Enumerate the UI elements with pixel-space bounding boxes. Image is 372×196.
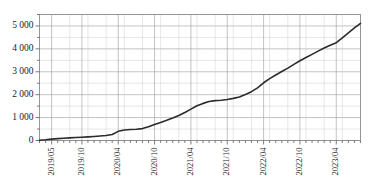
- data-line-cumulative-total: [40, 23, 361, 140]
- figure-caption: [0, 189, 372, 196]
- x-tick-label: 2021/04: [185, 147, 195, 176]
- y-tick-label: 1 000: [12, 112, 34, 122]
- y-tick-label: 3 000: [12, 66, 34, 76]
- line-chart: 5 0004 0003 0002 0001 0000 2019/052019/1…: [0, 0, 372, 196]
- x-axis-tick-labels: 2019/052019/102020/042020/102021/042021/…: [46, 147, 341, 176]
- x-tick-label: 2023/04: [330, 147, 340, 176]
- x-tick-label: 2020/04: [112, 147, 122, 176]
- major-gridlines-vertical: [52, 15, 361, 141]
- x-tick-label: 2021/10: [221, 148, 231, 176]
- y-tick-label: 5 000: [12, 20, 34, 30]
- x-axis-ticks: [40, 141, 361, 145]
- chart-canvas: 5 0004 0003 0002 0001 0000 2019/052019/1…: [0, 0, 372, 196]
- x-tick-label: 2019/05: [46, 148, 56, 176]
- x-tick-label: 2022/10: [294, 148, 304, 176]
- y-axis-ticks: [36, 15, 40, 141]
- x-tick-label: 2019/10: [76, 148, 86, 176]
- plot-area-frame: [40, 15, 361, 141]
- y-axis-tick-labels: 5 0004 0003 0002 0001 0000: [12, 20, 34, 145]
- y-tick-label: 2 000: [12, 89, 34, 99]
- y-tick-label: 0: [29, 135, 34, 145]
- x-tick-label: 2020/10: [149, 148, 159, 176]
- y-tick-label: 4 000: [12, 43, 34, 53]
- x-tick-label: 2022/04: [258, 147, 268, 176]
- data-series-layer: [40, 23, 361, 140]
